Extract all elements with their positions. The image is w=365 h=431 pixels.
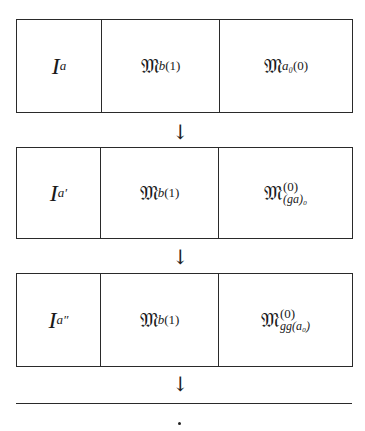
module-superscript: (0) <box>293 58 308 74</box>
module-subscript: gg(a₀) <box>280 320 310 332</box>
down-arrow-icon: ↓ <box>172 122 186 142</box>
module-symbol: 𝔐 <box>140 308 158 332</box>
module-symbol: 𝔐 <box>141 54 159 78</box>
index-symbol: I <box>50 180 58 207</box>
cell-index: Ia <box>17 20 102 112</box>
sup-sub-stack: (0)(ga)₀ <box>283 181 307 205</box>
sequence-box-1: Ia 𝔐b(1) 𝔐a₀(0) <box>16 19 353 113</box>
cell-module-a: 𝔐a₀(0) <box>220 20 352 112</box>
module-superscript: (1) <box>164 312 179 328</box>
sequence-box-3: Ia″ 𝔐b(1) 𝔐(0)gg(a₀) <box>16 273 353 367</box>
index-symbol: I <box>49 307 57 334</box>
continuation-dot <box>178 422 181 425</box>
module-symbol: 𝔐 <box>261 308 279 332</box>
cell-module-b: 𝔐b(1) <box>102 20 220 112</box>
module-symbol: 𝔐 <box>140 181 158 205</box>
index-subscript: a″ <box>57 312 69 328</box>
cell-module-b: 𝔐b(1) <box>101 148 219 238</box>
sup-sub-stack: (0)gg(a₀) <box>280 308 310 332</box>
continuation-line <box>16 403 352 404</box>
module-subscript: (ga)₀ <box>283 193 307 205</box>
cell-module-gga: 𝔐(0)gg(a₀) <box>219 274 352 366</box>
index-subscript: a′ <box>58 185 67 201</box>
down-arrow-icon: ↓ <box>172 374 186 394</box>
module-subscript: a₀ <box>282 58 293 74</box>
module-superscript: (1) <box>164 185 179 201</box>
index-symbol: I <box>52 53 60 80</box>
cell-module-ga: 𝔐(0)(ga)₀ <box>219 148 352 238</box>
module-superscript: (1) <box>165 58 180 74</box>
cell-index: Ia″ <box>17 274 101 366</box>
sequence-box-2: Ia′ 𝔐b(1) 𝔐(0)(ga)₀ <box>16 147 353 239</box>
cell-index: Ia′ <box>17 148 101 238</box>
module-symbol: 𝔐 <box>264 54 282 78</box>
cell-module-b: 𝔐b(1) <box>101 274 219 366</box>
module-symbol: 𝔐 <box>264 181 282 205</box>
index-subscript: a <box>60 58 67 74</box>
down-arrow-icon: ↓ <box>172 247 186 267</box>
